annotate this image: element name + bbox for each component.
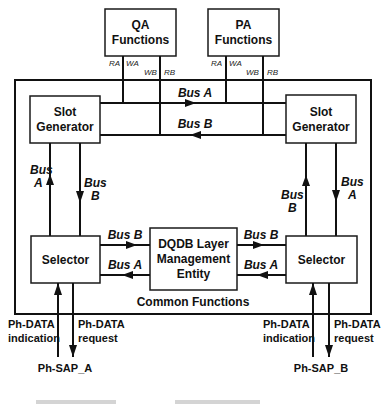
top-bus-a-label: Bus A [178,86,212,100]
left-bus-b-label-2: B [91,189,100,203]
bus-a-right-arrow [185,99,196,107]
pa-wb-label: WB [246,68,260,77]
right-mid-bus-b-label: Bus B [244,228,279,242]
pa-wa-label: WA [229,59,242,68]
ph-sap-a-label: Ph-SAP_A [38,362,92,374]
pa-rb-label: RB [267,68,279,77]
right-bus-b-label-2: B [288,201,297,215]
qa-wb-label: WB [144,68,158,77]
svg-text:Management: Management [157,252,230,266]
pa-title: PA [236,18,252,32]
left-bus-a-label-1: Bus [30,163,53,177]
top-bus-b-label: Bus B [178,117,213,131]
dqdb-layer-management-entity: DQDB Layer Management Entity [150,228,237,290]
sap-b-request-label-1: Ph-DATA [334,318,381,330]
right-bus-a-label-1: Bus [341,175,364,189]
qa-ra-label: RA [109,59,120,68]
pa-functions-block: PA Functions [208,9,279,56]
right-bus-b-label-1: Bus [281,188,304,202]
sap-a-request-label-1: Ph-DATA [78,318,125,330]
sap-a-request-label-2: request [78,332,118,344]
left-bus-a-label-2: A [33,176,43,190]
bus-b-left-arrow [190,131,201,139]
slot-generator-left: Slot Generator [30,96,100,143]
selector-right: Selector [286,236,357,283]
left-mid-bus-a-arrow [122,271,133,279]
left-mid-bus-b-arrow [126,241,137,249]
dqdb-node-architecture-diagram: QA Functions PA Functions RA WA WB RB RA… [0,0,385,404]
sap-b-request-down-arrow [325,345,333,357]
right-mid-bus-a-arrow [257,271,268,279]
common-functions-label: Common Functions [137,295,250,309]
clipped-caption-fragment [36,400,260,404]
selector-left: Selector [31,236,100,283]
svg-text:Entity: Entity [177,267,211,281]
svg-text:Slot: Slot [54,105,77,119]
ph-sap-b-label: Ph-SAP_B [294,362,348,374]
qa-title: QA [132,18,150,32]
sap-b-request-label-2: request [334,332,374,344]
pa-subtitle: Functions [215,33,273,47]
right-mid-bus-b-arrow [253,241,264,249]
svg-text:Generator: Generator [292,120,350,134]
sap-b-indication-up-arrow [309,283,317,295]
left-bus-b-down-arrow [76,191,84,203]
svg-text:Selector: Selector [42,253,90,267]
slot-generator-right: Slot Generator [286,95,356,143]
sap-a-request-down-arrow [69,345,77,357]
sap-b-indication-label-1: Ph-DATA [263,318,310,330]
left-mid-bus-b-label: Bus B [108,228,143,242]
qa-rb-label: RB [164,68,176,77]
sap-a-indication-up-arrow [54,283,62,295]
right-bus-a-down-arrow [332,190,340,202]
pa-ra-label: RA [211,59,222,68]
sap-a-indication-label-2: indication [8,332,60,344]
sap-a-indication-label-1: Ph-DATA [8,318,55,330]
left-bus-b-label-1: Bus [84,176,107,190]
qa-subtitle: Functions [112,33,170,47]
svg-text:DQDB Layer: DQDB Layer [158,237,229,251]
qa-wa-label: WA [126,59,139,68]
qa-functions-block: QA Functions [105,9,176,56]
left-mid-bus-a-label: Bus A [108,258,142,272]
right-bus-a-label-2: A [347,188,357,202]
right-bus-b-up-arrow [302,175,310,186]
right-mid-bus-a-label: Bus A [244,258,278,272]
svg-text:Generator: Generator [36,120,94,134]
svg-text:Selector: Selector [298,253,346,267]
sap-b-indication-label-2: indication [263,332,315,344]
svg-text:Slot: Slot [310,105,333,119]
